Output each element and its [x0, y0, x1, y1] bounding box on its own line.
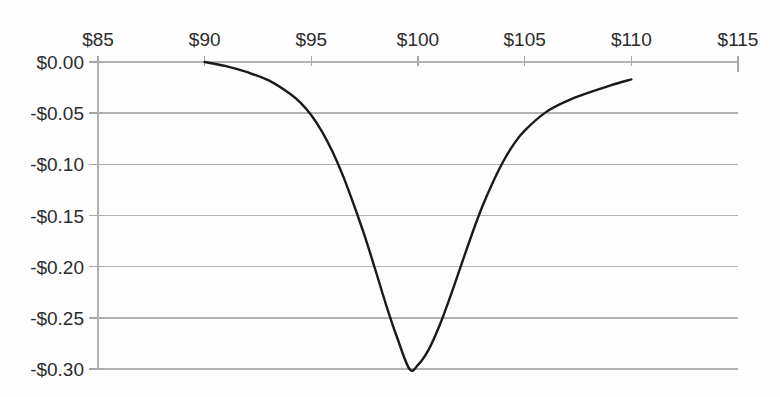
- x-tick-label-2: $95: [295, 29, 327, 50]
- x-tick-label-5: $110: [611, 29, 652, 50]
- x-tick-label-0: $85: [82, 29, 114, 50]
- x-tick-label-6: $115: [718, 29, 759, 50]
- y-tick-label-5: -$0.25: [30, 308, 84, 329]
- chart-background: [0, 0, 780, 397]
- y-tick-label-3: -$0.15: [30, 206, 84, 227]
- y-tick-label-6: -$0.30: [30, 359, 84, 380]
- value-vs-price-line-chart: $85$90$95$100$105$110$115 $0.00-$0.05-$0…: [0, 0, 780, 397]
- chart-container: $85$90$95$100$105$110$115 $0.00-$0.05-$0…: [0, 0, 780, 397]
- y-tick-label-0: $0.00: [36, 52, 84, 73]
- x-tick-label-4: $105: [504, 29, 546, 50]
- y-tick-label-4: -$0.20: [30, 257, 84, 278]
- x-tick-label-3: $100: [397, 29, 439, 50]
- y-tick-label-1: -$0.05: [30, 103, 84, 124]
- y-tick-label-2: -$0.10: [30, 154, 84, 175]
- x-tick-label-1: $90: [189, 29, 221, 50]
